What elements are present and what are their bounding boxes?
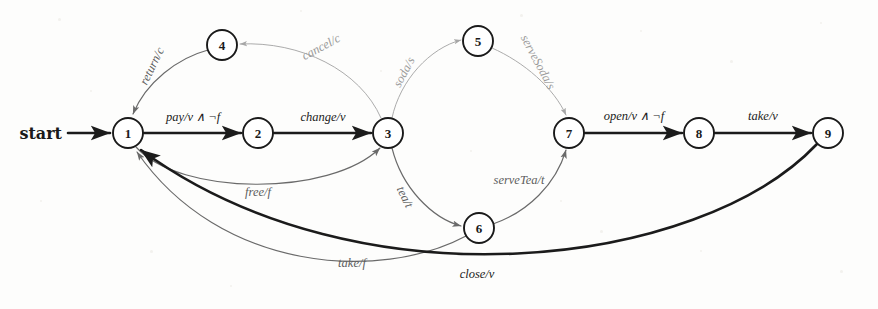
edge-label-e-soda: soda/s: [390, 54, 417, 89]
edge-label-e-tea: tea/t: [394, 184, 417, 211]
edge-label-e-cancel: cancel/c: [299, 31, 343, 63]
nodes-layer: 123456789: [113, 26, 843, 243]
state-node-2[interactable]: 2: [243, 118, 273, 148]
start-label: start: [19, 124, 62, 143]
state-node-1[interactable]: 1: [113, 118, 143, 148]
edge-label-e-change: change/v: [300, 110, 346, 124]
paper-speck: [520, 14, 523, 17]
state-label-4: 4: [219, 38, 226, 53]
paper-speck: [380, 70, 382, 72]
paper-speck: [820, 22, 822, 24]
edge-labels-layer: pay/v ∧ ¬fchange/vreturn/ccancel/cfree/f…: [137, 31, 778, 281]
state-node-9[interactable]: 9: [813, 118, 843, 148]
state-node-3[interactable]: 3: [373, 118, 403, 148]
edges-layer: [68, 40, 817, 261]
edge-e-servetea: [493, 150, 566, 224]
paper-speck: [230, 285, 232, 287]
state-label-2: 2: [255, 126, 262, 141]
paper-speck: [700, 250, 702, 252]
state-node-5[interactable]: 5: [463, 26, 493, 56]
state-node-6[interactable]: 6: [464, 213, 494, 243]
paper-speck: [300, 10, 302, 12]
paper-speck: [40, 200, 42, 202]
paper-speck: [90, 90, 92, 92]
edge-label-e-pay: pay/v ∧ ¬f: [165, 110, 222, 124]
edge-label-e-take-v: take/v: [748, 109, 778, 123]
state-node-8[interactable]: 8: [684, 118, 714, 148]
start-marker-layer: start: [19, 124, 62, 143]
paper-speck: [560, 200, 562, 202]
state-label-6: 6: [476, 221, 483, 236]
edge-label-e-return: return/c: [137, 45, 167, 87]
paper-speck: [150, 250, 153, 253]
state-label-9: 9: [825, 126, 832, 141]
state-label-5: 5: [475, 34, 482, 49]
edge-e-take-f: [137, 152, 466, 261]
state-label-3: 3: [385, 126, 392, 141]
state-node-7[interactable]: 7: [554, 118, 584, 148]
edge-label-e-open: open/v ∧ ¬f: [604, 109, 666, 123]
state-label-8: 8: [696, 126, 703, 141]
edge-label-e-servesoda: serveSoda/s: [518, 32, 558, 91]
paper-speck: [660, 130, 662, 132]
paper-speck: [470, 150, 472, 152]
edge-label-e-close: close/v: [460, 267, 495, 281]
state-node-4[interactable]: 4: [207, 30, 237, 60]
state-label-7: 7: [566, 126, 573, 141]
paper-speck: [640, 30, 642, 32]
edge-label-e-take-f: take/f: [338, 256, 367, 270]
state-label-1: 1: [125, 126, 132, 141]
paper-speck: [840, 270, 843, 273]
edge-e-free: [136, 147, 380, 184]
fsm-diagram: pay/v ∧ ¬fchange/vreturn/ccancel/cfree/f…: [0, 0, 878, 309]
paper-speck: [58, 18, 61, 21]
paper-speck: [760, 180, 762, 182]
edge-label-e-servetea: serveTea/t: [494, 173, 545, 187]
fsm-canvas: pay/v ∧ ¬fchange/vreturn/ccancel/cfree/f…: [0, 0, 878, 309]
paper-speck: [600, 230, 603, 233]
edge-label-e-free: free/f: [245, 185, 272, 199]
paper-speck: [730, 60, 733, 63]
